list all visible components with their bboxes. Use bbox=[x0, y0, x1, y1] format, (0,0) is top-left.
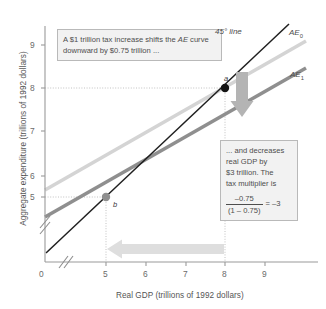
callout-top-ae-italic: AE bbox=[178, 35, 188, 44]
fraction-numerator: –0.75 bbox=[226, 193, 263, 205]
forty-five-degree-line-label: 45° line bbox=[215, 27, 242, 36]
x-tick-label-8: 8 bbox=[222, 269, 227, 279]
point-b-marker bbox=[102, 193, 110, 201]
ae0-label-text: AE bbox=[289, 28, 300, 37]
callout-right-line-2: real GDP by bbox=[226, 156, 293, 167]
figure-container: 9 8 7 6 5 0 5 6 7 8 9 Aggregate expendit… bbox=[0, 0, 326, 309]
y-tick-label-7: 7 bbox=[30, 126, 35, 136]
ae1-label: AE1 bbox=[290, 70, 304, 81]
callout-top-text-1: A $1 trillion tax increase shifts the bbox=[63, 35, 178, 44]
callout-tax-increase: A $1 trillion tax increase shifts the AE… bbox=[57, 29, 222, 61]
fraction-denominator: (1 – 0.75) bbox=[226, 205, 263, 216]
x-tick-label-6: 6 bbox=[143, 269, 148, 279]
x-axis-title: Real GDP (trillions of 1992 dollars) bbox=[116, 291, 244, 300]
y-tick-label-8: 8 bbox=[30, 83, 35, 93]
point-b-label: b bbox=[113, 200, 117, 209]
point-a-marker bbox=[221, 84, 229, 92]
y-tick-label-9: 9 bbox=[30, 40, 35, 50]
ae1-label-text: AE bbox=[290, 70, 301, 79]
x-tick-label-5: 5 bbox=[103, 269, 108, 279]
callout-right-line-3: $3 trillion. The bbox=[226, 167, 293, 178]
callout-right-line-1: ... and decreases bbox=[226, 145, 293, 156]
ae0-label: AE0 bbox=[289, 28, 303, 39]
ae1-label-subscript: 1 bbox=[301, 75, 304, 81]
callout-right-line-4: tax multiplier is bbox=[226, 178, 293, 189]
y-axis-title: Aggregate expenditure (trillions of 1992… bbox=[19, 39, 28, 239]
tax-multiplier-formula: –0.75 (1 – 0.75) = –3 bbox=[226, 191, 293, 216]
x-tick-label-9: 9 bbox=[262, 269, 267, 279]
ae0-label-subscript: 0 bbox=[300, 33, 303, 39]
x-tick-label-0: 0 bbox=[39, 269, 44, 279]
y-tick-label-6: 6 bbox=[30, 171, 35, 181]
x-tick-label-7: 7 bbox=[183, 269, 188, 279]
fraction-result: = –3 bbox=[266, 198, 281, 209]
callout-gdp-decrease: ... and decreases real GDP by $3 trillio… bbox=[220, 140, 298, 221]
tax-multiplier-fraction: –0.75 (1 – 0.75) bbox=[226, 193, 263, 216]
point-a-label: a bbox=[224, 74, 228, 83]
y-tick-label-5: 5 bbox=[30, 192, 35, 202]
